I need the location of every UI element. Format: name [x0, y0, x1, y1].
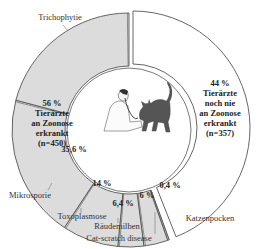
- svg-text:6 %: 6 %: [140, 190, 155, 200]
- svg-text:an Zoonose: an Zoonose: [199, 108, 241, 118]
- svg-text:Räudemilben: Räudemilben: [94, 221, 140, 231]
- svg-text:erkrankt: erkrankt: [204, 118, 237, 128]
- vet-cat-illustration: [67, 68, 191, 192]
- svg-text:6,4 %: 6,4 %: [112, 198, 133, 208]
- svg-text:Cat-scratch disease: Cat-scratch disease: [86, 233, 152, 243]
- svg-text:14 %: 14 %: [92, 178, 111, 188]
- svg-text:noch nie: noch nie: [205, 98, 236, 108]
- svg-text:Tierärzte: Tierärzte: [35, 108, 69, 118]
- svg-text:Katzenpocken: Katzenpocken: [186, 213, 235, 223]
- svg-text:0,4 %: 0,4 %: [159, 180, 180, 190]
- svg-text:(n=357): (n=357): [206, 128, 234, 138]
- svg-text:erkrankt: erkrankt: [36, 128, 69, 138]
- svg-text:56 %: 56 %: [42, 98, 61, 108]
- svg-text:Toxoplasmose: Toxoplasmose: [58, 211, 107, 221]
- svg-text:Trichophytie: Trichophytie: [38, 12, 82, 22]
- svg-text:44 %: 44 %: [210, 78, 229, 88]
- donut-chart: 35,6 %14 %6,4 %6 %0,4 %56 %Tierärztean Z…: [0, 0, 259, 249]
- svg-text:Tierärzte: Tierärzte: [203, 88, 237, 98]
- svg-text:an Zoonose: an Zoonose: [31, 118, 73, 128]
- svg-text:(n=450): (n=450): [38, 138, 66, 148]
- svg-text:Mikrosporie: Mikrosporie: [9, 190, 51, 200]
